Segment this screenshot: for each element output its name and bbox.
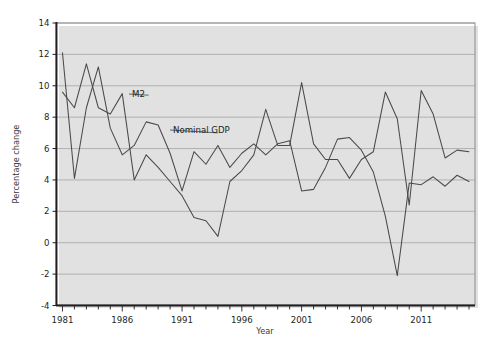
y-tick-label: 14 bbox=[39, 18, 50, 28]
chart-svg: -4-202468101214 198119861991199620012006… bbox=[0, 0, 490, 345]
y-tick-label: 0 bbox=[44, 238, 49, 248]
x-axis-tick-labels: 1981198619911996200120062011 bbox=[52, 315, 433, 325]
y-tick-label: -4 bbox=[41, 301, 50, 311]
chart-figure: -4-202468101214 198119861991199620012006… bbox=[0, 0, 490, 345]
x-tick-label: 1981 bbox=[52, 315, 74, 325]
y-axis-tick-labels: -4-202468101214 bbox=[39, 18, 50, 311]
y-tick-label: 8 bbox=[44, 112, 49, 122]
x-tick-label: 1991 bbox=[171, 315, 193, 325]
y-tick-label: 12 bbox=[39, 49, 50, 59]
nominal-gdp-label: Nominal GDP bbox=[173, 125, 230, 135]
x-tick-label: 2001 bbox=[291, 315, 313, 325]
y-tick-label: 6 bbox=[44, 144, 49, 154]
plot-frame-shadow bbox=[59, 26, 478, 308]
x-tick-label: 1986 bbox=[111, 315, 133, 325]
y-axis-title: Percentage change bbox=[11, 125, 21, 204]
m2-label: M2 bbox=[132, 89, 145, 99]
y-tick-label: 10 bbox=[39, 81, 50, 91]
annotation-nominal-gdp: Nominal GDP bbox=[170, 125, 230, 135]
x-tick-label: 2011 bbox=[410, 315, 432, 325]
x-tick-label: 1996 bbox=[231, 315, 253, 325]
x-axis-title: Year bbox=[255, 326, 274, 336]
y-tick-label: 2 bbox=[44, 206, 49, 216]
x-tick-label: 2006 bbox=[350, 315, 372, 325]
y-tick-label: -2 bbox=[41, 269, 50, 279]
y-tick-label: 4 bbox=[44, 175, 49, 185]
